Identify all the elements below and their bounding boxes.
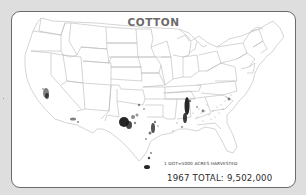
state-boundaries	[25, 18, 284, 161]
map-card: COTTON	[11, 11, 296, 188]
map-legend: 1 DOT=5000 ACRES HARVESTED	[164, 161, 238, 166]
map-title: COTTON	[12, 16, 295, 28]
us-map	[12, 12, 295, 187]
map-total: 1967 TOTAL: 9,502,000	[167, 173, 272, 183]
scan-speck	[3, 98, 4, 99]
cotton-dots	[42, 88, 231, 169]
